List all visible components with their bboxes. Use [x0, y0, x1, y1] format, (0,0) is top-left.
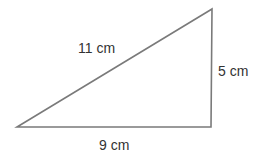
vertical-side-label: 5 cm [218, 63, 248, 79]
base-label: 9 cm [99, 137, 129, 153]
triangle [17, 9, 212, 127]
triangle-figure [0, 0, 265, 163]
hypotenuse-label: 11 cm [78, 40, 115, 56]
